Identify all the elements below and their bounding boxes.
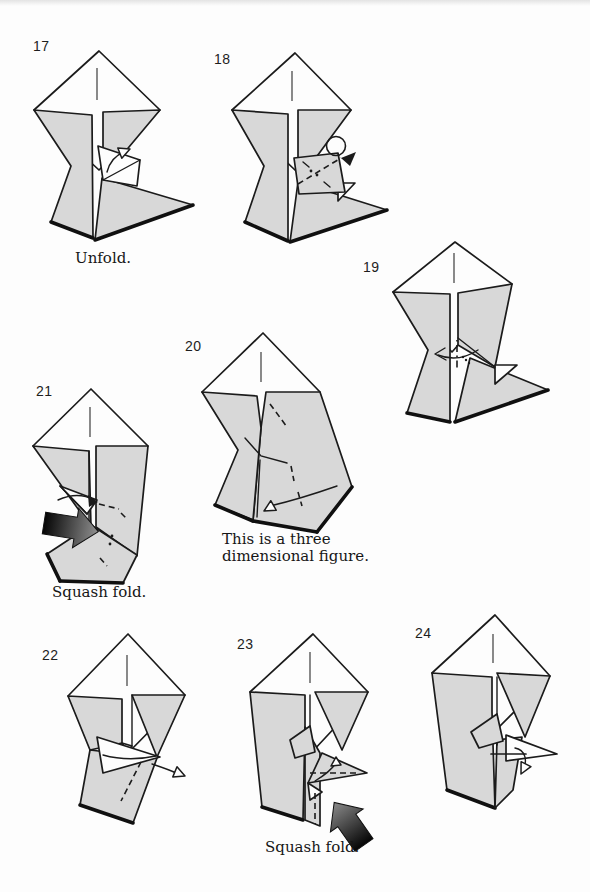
caption-line-2: dimensional figure. bbox=[222, 548, 369, 565]
step-caption: Squash fold. bbox=[52, 584, 146, 601]
step-number: 22 bbox=[42, 647, 59, 663]
step-22-diagram bbox=[68, 634, 185, 823]
step-17-diagram bbox=[34, 51, 193, 240]
step-18-diagram bbox=[232, 53, 387, 242]
step-21-diagram bbox=[33, 389, 148, 583]
diagrams-canvas bbox=[0, 0, 590, 892]
origami-instructions-page: 17 Unfold. 18 19 20 This is a three dime… bbox=[0, 0, 590, 892]
step-caption: Squash fold. bbox=[265, 839, 359, 856]
unfold-arrow-icon bbox=[152, 764, 185, 777]
step-number: 18 bbox=[214, 51, 231, 67]
fold-dots bbox=[310, 170, 313, 173]
step-23-diagram bbox=[250, 634, 380, 856]
step-number: 24 bbox=[415, 625, 432, 641]
step-caption: This is a three dimensional figure. bbox=[222, 531, 369, 565]
step-19-diagram bbox=[393, 242, 548, 422]
step-20-diagram bbox=[202, 333, 352, 532]
step-number: 20 bbox=[185, 338, 202, 354]
caption-line-1: This is a three bbox=[222, 531, 369, 548]
step-caption: Unfold. bbox=[75, 250, 131, 267]
step-number: 23 bbox=[237, 636, 254, 652]
step-number: 19 bbox=[363, 259, 380, 275]
step-number: 17 bbox=[33, 38, 50, 54]
step-number: 21 bbox=[36, 383, 53, 399]
step-24-diagram bbox=[432, 615, 557, 808]
